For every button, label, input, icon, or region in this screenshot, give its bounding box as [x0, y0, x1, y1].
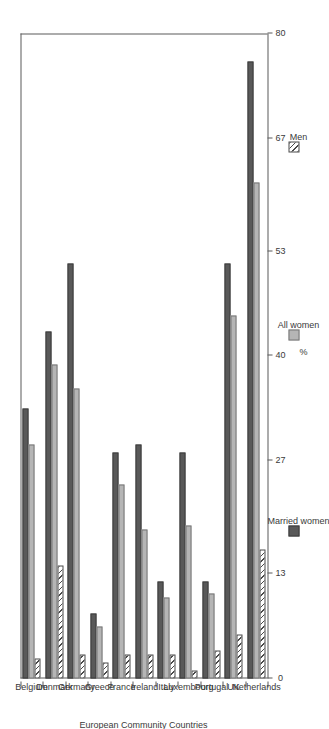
- bar-allwomen: [141, 529, 147, 678]
- bar-allwomen: [208, 593, 214, 678]
- bar-allwomen: [185, 525, 191, 678]
- bar-men: [57, 565, 63, 678]
- bar-group: [45, 0, 63, 712]
- bar-men: [79, 654, 85, 678]
- bar-allwomen: [253, 182, 259, 678]
- bar-men: [259, 549, 265, 678]
- bar-married: [247, 61, 253, 678]
- bar-married: [202, 581, 208, 678]
- bar-group: [224, 0, 242, 712]
- bar-group: [112, 0, 130, 712]
- bar-allwomen: [163, 597, 169, 678]
- bar-group: [157, 0, 175, 712]
- value-tick-label: 80: [260, 27, 300, 37]
- category-label: Portugal: [194, 681, 228, 691]
- bar-allwomen: [96, 626, 102, 678]
- legend-swatch-men: [288, 141, 299, 152]
- bar-group: [202, 0, 220, 712]
- bar-married: [22, 408, 28, 678]
- legend-swatch-allwomen: [288, 329, 299, 340]
- bar-men: [34, 658, 40, 678]
- legend-label-allwomen: All women: [277, 319, 319, 329]
- bar-group: [247, 0, 265, 712]
- bar-married: [112, 452, 118, 678]
- value-tick-label: 27: [260, 454, 300, 464]
- bar-men: [236, 634, 242, 678]
- legend-label-married: Married women: [267, 515, 329, 525]
- bar-allwomen: [118, 485, 124, 679]
- bar-married: [90, 614, 96, 679]
- bar-allwomen: [51, 364, 57, 678]
- legend-label-men: Men: [289, 131, 307, 141]
- bar-group: [90, 0, 108, 712]
- bar-men: [102, 662, 108, 678]
- value-tick-label: 53: [260, 245, 300, 255]
- bar-allwomen: [73, 388, 79, 678]
- category-label: Netherlands: [232, 681, 281, 691]
- bar-married: [157, 581, 163, 678]
- bar-married: [224, 263, 230, 678]
- bar-group: [135, 0, 153, 712]
- legend-swatch-married: [288, 525, 299, 536]
- value-axis-title: %: [299, 347, 307, 357]
- value-tick-label: 13: [260, 567, 300, 577]
- value-tick-label: 0: [260, 672, 300, 682]
- bar-men: [124, 654, 130, 678]
- category-axis-title: European Community Countries: [78, 719, 206, 729]
- bar-married: [135, 444, 141, 678]
- bar-married: [45, 331, 51, 678]
- bar-men: [191, 670, 197, 678]
- bar-allwomen: [28, 444, 34, 678]
- bar-men: [169, 654, 175, 678]
- category-label: Ireland: [130, 681, 158, 691]
- bar-men: [214, 650, 220, 678]
- bar-allwomen: [230, 315, 236, 678]
- bar-group: [179, 0, 197, 712]
- bar-group: [67, 0, 85, 712]
- value-tick-label: 40: [260, 350, 300, 360]
- bar-men: [147, 654, 153, 678]
- bar-married: [179, 452, 185, 678]
- bar-group: [22, 0, 40, 712]
- bar-married: [67, 263, 73, 678]
